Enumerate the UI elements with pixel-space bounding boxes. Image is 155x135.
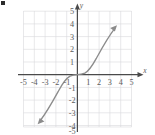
x-tick-label-1: 1 — [86, 78, 90, 87]
coordinate-plane: -5 -4 -3 -2 -1 1 2 3 4 5 5 4 3 2 1 -1 -2… — [0, 0, 155, 134]
y-tick-label--2: -2 — [69, 96, 76, 105]
y-tick-label--5: -5 — [69, 127, 76, 135]
y-tick-label-2: 2 — [70, 45, 74, 54]
y-tick-label--3: -3 — [69, 109, 76, 118]
y-tick-label-4: 4 — [70, 20, 74, 29]
y-tick-labels: 5 4 3 2 1 -1 -2 -3 -4 -5 — [69, 7, 76, 134]
y-tick-label-3: 3 — [70, 33, 74, 42]
x-tick-label-2: 2 — [97, 78, 101, 87]
x-tick-label-5: 5 — [129, 78, 133, 87]
x-tick-label--4: -4 — [31, 78, 38, 87]
x-tick-label--3: -3 — [42, 78, 49, 87]
x-tick-label--2: -2 — [52, 78, 59, 87]
x-axis-label: x — [142, 66, 147, 75]
y-tick-label--1: -1 — [69, 84, 76, 93]
y-tick-label-5: 5 — [70, 7, 74, 16]
bullet-marker-icon — [1, 1, 5, 5]
x-tick-label-3: 3 — [108, 78, 112, 87]
graph-figure: -5 -4 -3 -2 -1 1 2 3 4 5 5 4 3 2 1 -1 -2… — [0, 0, 155, 134]
y-tick-label-1: 1 — [70, 58, 74, 67]
x-tick-label-4: 4 — [119, 78, 123, 87]
x-tick-label--5: -5 — [20, 78, 27, 87]
y-axis-label: y — [79, 1, 84, 10]
